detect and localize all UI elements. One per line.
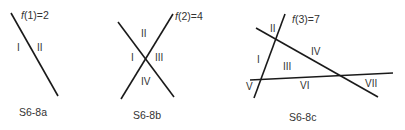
figure-a-function-label: f(1)=2: [21, 9, 49, 21]
figure-b-region-3: III: [155, 52, 163, 63]
figure-b-region-4: IV: [141, 76, 151, 87]
figure-c: f(3)=7 I II III IV V VI VII S6-8c: [246, 13, 393, 123]
figure-b-function-label: f(2)=4: [175, 10, 203, 22]
figure-a-region-2: II: [37, 42, 43, 53]
figure-a-region-1: I: [17, 42, 20, 53]
figure-a: f(1)=2 I II S6-8a: [11, 9, 58, 118]
figure-c-region-3: III: [283, 61, 291, 72]
line-regions-diagram: f(1)=2 I II S6-8a f(2)=4 I II III IV S6-…: [0, 0, 405, 130]
figure-c-region-1: I: [257, 54, 260, 65]
figure-b-region-1: I: [131, 52, 134, 63]
figure-a-caption: S6-8a: [19, 106, 47, 118]
figure-b-region-2: II: [141, 28, 147, 39]
figure-c-line-2: [256, 28, 378, 97]
figure-c-caption: S6-8c: [289, 111, 316, 123]
figure-b: f(2)=4 I II III IV S6-8b: [118, 10, 203, 121]
figure-a-line-1: [11, 13, 58, 96]
figure-c-region-6: VI: [300, 80, 309, 91]
figure-c-region-4: IV: [311, 46, 321, 57]
figure-c-function-label: f(3)=7: [292, 13, 320, 25]
figure-c-region-2: II: [270, 23, 276, 34]
figure-c-region-5: V: [246, 81, 253, 92]
figure-b-caption: S6-8b: [133, 109, 161, 121]
figure-c-region-7: VII: [365, 78, 377, 89]
